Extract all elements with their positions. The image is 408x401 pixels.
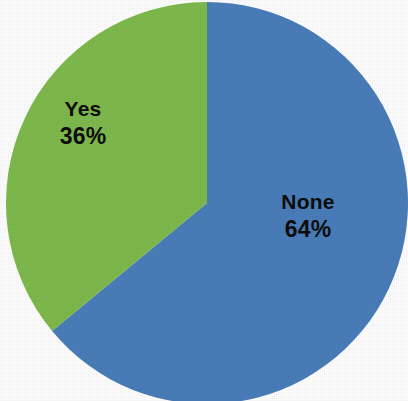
pie-slice-label-none-value: 64%: [262, 215, 354, 243]
pie-slice-label-yes: Yes 36%: [37, 96, 129, 150]
pie-slice-label-yes-name: Yes: [37, 96, 129, 122]
pie-chart-figure: None 64% Yes 36%: [0, 0, 408, 401]
pie-slice-label-none: None 64%: [262, 189, 354, 243]
pie-slice-label-yes-value: 36%: [37, 122, 129, 150]
pie-slice-label-none-name: None: [262, 189, 354, 215]
